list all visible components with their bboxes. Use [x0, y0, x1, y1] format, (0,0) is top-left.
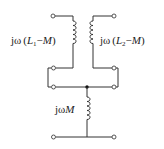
terminal-mid-left-lower [52, 85, 56, 89]
middle-section [48, 66, 118, 89]
terminal-mid-right-upper [112, 66, 116, 70]
terminal-mid-right-lower [112, 85, 116, 89]
terminal-mid-left-upper [52, 66, 56, 70]
left-inductor-coil [73, 21, 76, 44]
shunt-inductor-label: jωM [54, 103, 75, 115]
terminal-top-left [51, 14, 55, 18]
right-inductor-coil [90, 21, 93, 44]
left-inductor-label: jω(L1−M) [10, 34, 56, 48]
terminal-bottom-right [112, 135, 116, 139]
circuit-diagram: jω(L1−M) jω(L2−M) jωM [0, 0, 164, 149]
terminal-bottom-left [52, 135, 56, 139]
right-inductor-label: jω(L2−M) [99, 34, 145, 48]
terminal-top-right [112, 14, 116, 18]
shunt-inductor-coil [87, 97, 90, 120]
